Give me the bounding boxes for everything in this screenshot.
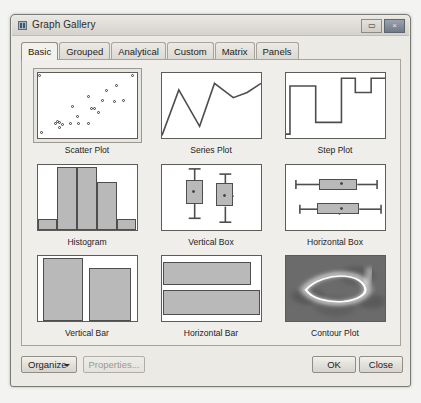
- scatter-point: [122, 99, 125, 102]
- gallery-item-series-plot[interactable]: Series Plot: [151, 66, 271, 156]
- tab-custom[interactable]: Custom: [167, 42, 214, 59]
- plot-shape: [97, 182, 117, 230]
- thumbnail-frame: [33, 251, 142, 326]
- thumbnail-frame: [281, 251, 390, 326]
- graph-gallery-grid: Scatter Plot Series Plot Step Plot Histo…: [21, 59, 401, 346]
- gallery-item-vertical-bar[interactable]: Vertical Bar: [27, 249, 147, 339]
- step-plot-thumbnail: [285, 72, 386, 139]
- tab-grouped[interactable]: Grouped: [59, 42, 110, 59]
- scatter-point: [76, 115, 79, 118]
- gallery-item-label: Scatter Plot: [65, 145, 109, 155]
- gallery-item-label: Series Plot: [190, 145, 232, 155]
- thumbnail-frame: [33, 160, 142, 235]
- tab-bar: Basic Grouped Analytical Custom Matrix P…: [21, 42, 401, 60]
- scatter-point: [77, 122, 80, 125]
- plot-shape: [77, 167, 97, 229]
- vertical-bar-thumbnail: [37, 255, 138, 322]
- gallery-item-scatter-plot[interactable]: Scatter Plot: [27, 66, 147, 156]
- tab-matrix[interactable]: Matrix: [215, 42, 255, 59]
- gallery-item-label: Step Plot: [318, 145, 353, 155]
- gallery-item-contour-plot[interactable]: Contour Plot: [275, 249, 395, 339]
- scatter-point: [69, 122, 72, 125]
- contour-plot-thumbnail: [285, 255, 386, 322]
- tab-basic[interactable]: Basic: [21, 42, 58, 60]
- close-button[interactable]: Close: [359, 356, 403, 373]
- scatter-point: [61, 123, 64, 126]
- ok-button[interactable]: OK: [312, 356, 356, 373]
- scatter-point: [87, 122, 90, 125]
- thumbnail-frame: [157, 68, 266, 143]
- horizontal-box-thumbnail: [285, 164, 386, 231]
- plot-shape: [163, 290, 260, 315]
- gallery-item-label: Horizontal Box: [307, 237, 363, 247]
- app-window-icon: [18, 21, 27, 30]
- plot-shape: [57, 167, 77, 229]
- scatter-point: [113, 100, 116, 103]
- chevron-down-icon: [64, 364, 70, 367]
- thumbnail-frame: [157, 160, 266, 235]
- scatter-point: [40, 131, 43, 134]
- thumbnail-frame: [157, 251, 266, 326]
- plot-shape: [163, 262, 250, 285]
- window-title: Graph Gallery: [32, 19, 96, 30]
- scatter-point: [58, 126, 61, 129]
- hbox-whiskers: [286, 165, 385, 230]
- gallery-item-label: Contour Plot: [311, 328, 359, 338]
- tab-analytical[interactable]: Analytical: [111, 42, 166, 59]
- plot-shape: [317, 203, 359, 214]
- box-mean-marker: [340, 207, 343, 210]
- step-line: [286, 73, 385, 138]
- gallery-item-label: Vertical Box: [188, 237, 233, 247]
- scatter-point: [101, 99, 104, 102]
- plot-shape: [89, 268, 131, 321]
- scatter-point: [97, 111, 100, 114]
- plot-shape: [117, 219, 137, 229]
- dialog-button-bar: Organize Properties... OK Close: [12, 347, 409, 385]
- scatter-point: [115, 84, 118, 87]
- gallery-item-histogram[interactable]: Histogram: [27, 158, 147, 248]
- horizontal-bar-thumbnail: [161, 255, 262, 322]
- thumbnail-frame: [33, 68, 142, 143]
- graph-gallery-window: Graph Gallery ▭ × Basic Grouped Analytic…: [10, 14, 411, 387]
- scatter-point: [38, 74, 41, 77]
- scatter-point: [87, 95, 90, 98]
- gallery-item-horizontal-bar[interactable]: Horizontal Bar: [151, 249, 271, 339]
- gallery-item-label: Histogram: [67, 237, 106, 247]
- scatter-point: [93, 107, 96, 110]
- close-window-button[interactable]: ×: [384, 19, 405, 33]
- close-icon: ×: [385, 20, 404, 32]
- series-plot-thumbnail: [161, 72, 262, 139]
- scatter-point: [131, 74, 134, 77]
- gallery-item-vertical-box[interactable]: Vertical Box: [151, 158, 271, 248]
- vertical-box-thumbnail: [161, 164, 262, 231]
- scatter-point: [105, 89, 108, 92]
- gallery-item-step-plot[interactable]: Step Plot: [275, 66, 395, 156]
- histogram-thumbnail: [37, 164, 138, 231]
- thumbnail-frame: [281, 68, 390, 143]
- restore-icon: ▭: [362, 20, 381, 32]
- restore-button[interactable]: ▭: [361, 19, 382, 33]
- contour-surface: [286, 256, 385, 321]
- gallery-item-label: Vertical Bar: [65, 328, 109, 338]
- box-mean-marker: [223, 194, 226, 197]
- gallery-item-horizontal-box[interactable]: Horizontal Box: [275, 158, 395, 248]
- plot-shape: [38, 219, 58, 229]
- properties-button[interactable]: Properties...: [83, 356, 145, 373]
- scatter-plot-thumbnail: [37, 72, 138, 139]
- scatter-point: [71, 105, 74, 108]
- plot-shape: [319, 179, 357, 190]
- gallery-item-label: Horizontal Bar: [184, 328, 238, 338]
- title-bar[interactable]: Graph Gallery ▭ ×: [12, 16, 409, 36]
- series-line: [162, 73, 261, 138]
- organize-label: Organize: [28, 359, 67, 370]
- tab-panels[interactable]: Panels: [256, 42, 299, 59]
- thumbnail-frame: [281, 160, 390, 235]
- organize-button[interactable]: Organize: [21, 356, 77, 373]
- plot-shape: [43, 258, 83, 321]
- vbox-whiskers: [162, 165, 261, 230]
